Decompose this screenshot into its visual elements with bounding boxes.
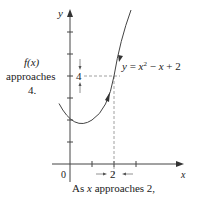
x-marker-label: 2 (110, 168, 116, 180)
curve-arrow-up-icon (105, 92, 110, 102)
annotation-fx: f(x) (24, 56, 40, 69)
x-axis-arrow-icon (176, 161, 184, 167)
limit-diagram: y x 0 2 4 y = x2 − x + 2 f(x) approaches… (0, 0, 197, 207)
annotation-four: 4. (28, 84, 37, 96)
bottom-caption: As x approaches 2, (72, 182, 155, 194)
x-axis-label: x (180, 169, 186, 180)
y-marker-label: 4 (76, 70, 82, 82)
annotation-approaches: approaches (6, 70, 55, 82)
y-axis-arrow-icon (67, 9, 73, 17)
y-axis (67, 9, 73, 182)
function-label: y = x2 − x + 2 (121, 60, 181, 72)
y-axis-label: y (57, 7, 63, 19)
x-axis (52, 161, 184, 167)
origin-label: 0 (61, 169, 66, 180)
